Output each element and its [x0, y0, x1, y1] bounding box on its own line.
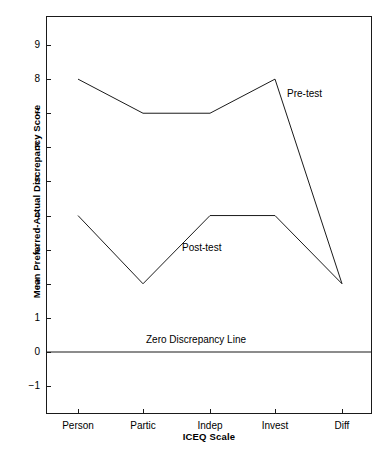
series-overlay: [0, 0, 388, 453]
pre-test-label: Pre-test: [287, 88, 322, 100]
discrepancy-line-chart: Mean Preferred-Actual Discrepancy Score …: [0, 0, 388, 453]
post-test-label: Post-test: [182, 242, 221, 254]
zero-line-label: Zero Discrepancy Line: [116, 334, 276, 346]
